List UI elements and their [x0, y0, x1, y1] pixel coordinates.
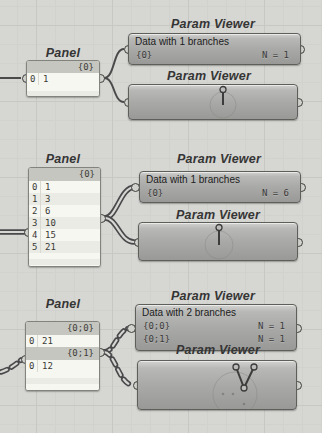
panel3-title: Panel [3, 297, 123, 311]
panel-row-value: 6 [41, 205, 50, 217]
branch-count: N = 6 [262, 187, 289, 200]
panel-branch-header: {0} [27, 61, 99, 73]
tree-diagram-2-branches [138, 361, 297, 410]
panel2-title: Panel [3, 152, 123, 166]
viewer-text2-title: Param Viewer [159, 152, 279, 166]
panel-row-value: 10 [41, 217, 56, 229]
panel-row: 3 10 [29, 217, 100, 229]
tree-faint-dot [243, 403, 246, 406]
viewer-summary: Data with 1 branches [140, 172, 300, 187]
tree-depth-ring [213, 372, 257, 410]
viewer-text3-title: Param Viewer [153, 289, 273, 303]
param-viewer-text-2[interactable]: Data with 1 branches {0} N = 6 [139, 171, 301, 203]
branch-count: N = 1 [258, 320, 285, 333]
tree-diagram-1-branch [129, 85, 298, 120]
panel-row-value: 1 [41, 181, 50, 193]
param-viewer-draw-1[interactable] [128, 84, 298, 120]
panel-branch-header: {0;1} [26, 347, 99, 360]
panel-row: 1 3 [29, 193, 100, 205]
wire-input-stub-3[interactable] [1, 360, 21, 372]
branch-count: N = 1 [262, 49, 289, 62]
tree-leaf-node [216, 225, 222, 231]
viewer-draw1-title: Param Viewer [149, 69, 269, 83]
tree-leaf-node [233, 364, 239, 370]
panel-row: 0 21 [26, 335, 99, 347]
tree-root-node [241, 385, 247, 391]
panel1-title: Panel [3, 46, 123, 60]
panel-component-3[interactable]: {0;0} 0 21 {0;1} 0 12 [25, 321, 100, 391]
branch-path: {0;0} [143, 320, 170, 333]
viewer-summary: Data with 1 branches [129, 34, 300, 49]
tree-faint-dot [222, 393, 225, 396]
tree-diagram-1-branch [139, 223, 298, 261]
panel-row-index: 5 [29, 241, 41, 253]
viewer-branch-row: {0} N = 6 [140, 187, 300, 200]
param-viewer-text-1[interactable]: Data with 1 branches {0} N = 1 [128, 33, 301, 65]
panel-row: 0 12 [26, 360, 99, 372]
tree-leaf-node [251, 364, 257, 370]
param-viewer-draw-2[interactable] [138, 222, 298, 261]
panel-branch-header: {0;0} [26, 322, 99, 335]
panel-branch-header: {0} [29, 168, 100, 181]
panel-component-2[interactable]: {0} 0 1 1 3 2 6 3 10 4 15 5 21 [28, 167, 101, 267]
panel-filler [29, 253, 100, 266]
tree-faint-dot [232, 393, 235, 396]
panel-row: 4 15 [29, 229, 100, 241]
wire-panel1-to-viewer-draw1[interactable] [104, 78, 124, 102]
panel-row-value: 12 [38, 360, 53, 372]
panel-row-index: 0 [26, 360, 38, 372]
panel-row: 0 1 [27, 73, 99, 85]
panel-row-index: 2 [29, 205, 41, 217]
tree-leaf-node [220, 87, 226, 93]
panel-filler [26, 372, 99, 390]
panel-row-index: 0 [26, 335, 38, 347]
viewer-draw2-title: Param Viewer [158, 208, 278, 222]
panel-row-index: 1 [29, 193, 41, 205]
branch-path: {0} [136, 49, 152, 62]
viewer-branch-row: {0;0} N = 1 [136, 320, 296, 333]
viewer-summary: Data with 2 branches [136, 305, 296, 320]
wire-panel3-to-viewer-text3[interactable] [104, 328, 131, 352]
panel-filler [27, 85, 99, 96]
panel-row-value: 1 [39, 73, 48, 85]
panel-row-index: 0 [27, 73, 39, 85]
wire-panel2-to-viewer-text2[interactable] [105, 187, 135, 218]
panel-row-index: 0 [29, 181, 41, 193]
panel-row-value: 15 [41, 229, 56, 241]
panel-row-value: 21 [41, 241, 56, 253]
branch-path: {0} [147, 187, 163, 200]
panel-row: 2 6 [29, 205, 100, 217]
panel-component-1[interactable]: {0} 0 1 [26, 60, 100, 97]
wire-panel3-to-viewer-draw3[interactable] [104, 352, 133, 385]
viewer-text1-title: Param Viewer [153, 17, 273, 31]
wire-panel2-to-viewer-draw2[interactable] [105, 218, 134, 242]
panel-row-index: 3 [29, 217, 41, 229]
panel-row-value: 3 [41, 193, 50, 205]
panel-row-index: 4 [29, 229, 41, 241]
param-viewer-draw-3[interactable] [137, 360, 297, 410]
viewer-draw3-title: Param Viewer [158, 343, 278, 357]
panel-row-value: 21 [38, 335, 53, 347]
panel-row: 5 21 [29, 241, 100, 253]
wire-panel3-to-viewer-draw3-outline [104, 352, 133, 385]
panel-row: 0 1 [29, 181, 100, 193]
grasshopper-canvas: Param Viewer Data with 1 branches {0} N … [0, 0, 322, 433]
viewer-branch-row: {0} N = 1 [129, 49, 300, 62]
